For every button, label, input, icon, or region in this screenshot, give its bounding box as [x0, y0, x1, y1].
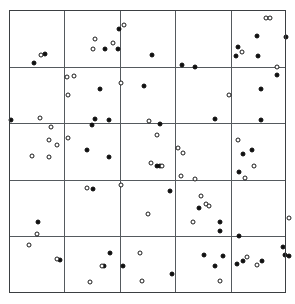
data-point-open [254, 262, 259, 267]
data-point-open [148, 160, 153, 165]
data-point-open [55, 142, 60, 147]
grid-line-vertical [231, 10, 232, 293]
data-point-open [155, 133, 160, 138]
data-point-open [252, 163, 257, 168]
data-point-filled [221, 253, 226, 258]
data-point-open [199, 194, 204, 199]
data-point-open [71, 74, 76, 79]
data-point-filled [234, 54, 239, 59]
grid-line-horizontal [9, 67, 286, 68]
data-point-open [30, 154, 35, 159]
data-point-open [139, 278, 144, 283]
data-point-open [193, 177, 198, 182]
data-point-open [180, 151, 185, 156]
data-point-open [54, 257, 59, 262]
data-point-filled [150, 53, 155, 58]
data-point-open [100, 263, 105, 268]
data-point-open [92, 37, 97, 42]
data-point-open [206, 203, 211, 208]
data-point-filled [236, 234, 241, 239]
data-point-open [122, 22, 127, 27]
data-point-filled [250, 148, 255, 153]
data-point-filled [213, 117, 218, 122]
data-point-open [236, 138, 241, 143]
grid-line-vertical [64, 10, 65, 293]
data-point-filled [193, 65, 198, 70]
data-point-filled [217, 229, 222, 234]
data-point-filled [142, 83, 147, 88]
data-point-open [84, 185, 89, 190]
data-point-filled [106, 154, 111, 159]
data-point-open [145, 211, 150, 216]
data-point-open [287, 215, 292, 220]
data-point-filled [235, 44, 240, 49]
data-point-filled [255, 34, 260, 39]
data-point-filled [240, 259, 245, 264]
grid-line-vertical [175, 10, 176, 293]
data-point-open [118, 183, 123, 188]
data-point-filled [97, 87, 102, 92]
data-point-open [38, 53, 43, 58]
data-point-filled [235, 261, 240, 266]
data-point-open [147, 118, 152, 123]
data-point-filled [179, 63, 184, 68]
data-point-filled [256, 53, 261, 58]
data-point-open [217, 279, 222, 284]
scatter-plot-figure [0, 0, 295, 304]
data-point-open [160, 163, 165, 168]
data-point-open [66, 93, 71, 98]
data-point-open [275, 64, 280, 69]
data-point-filled [259, 86, 264, 91]
data-point-open [240, 50, 245, 55]
data-point-filled [168, 189, 173, 194]
data-point-open [191, 219, 196, 224]
data-point-open [65, 135, 70, 140]
data-point-open [179, 174, 184, 179]
grid-line-vertical [120, 10, 121, 293]
data-point-filled [158, 122, 163, 127]
data-point-open [175, 145, 180, 150]
data-point-filled [284, 35, 289, 40]
data-point-filled [259, 258, 264, 263]
data-point-open [91, 47, 96, 52]
data-point-filled [259, 118, 264, 123]
data-point-open [64, 75, 69, 80]
data-point-open [118, 81, 123, 86]
data-point-filled [107, 251, 112, 256]
data-point-filled [169, 271, 174, 276]
data-point-filled [281, 244, 286, 249]
data-point-filled [89, 122, 94, 127]
data-point-filled [36, 219, 41, 224]
plot-area [9, 10, 286, 293]
data-point-filled [213, 264, 218, 269]
data-point-open [34, 232, 39, 237]
data-point-open [26, 243, 31, 248]
data-point-filled [84, 147, 89, 152]
data-point-filled [102, 47, 107, 52]
data-point-open [47, 154, 52, 159]
data-point-filled [91, 186, 96, 191]
data-point-open [38, 115, 43, 120]
data-point-filled [106, 118, 111, 123]
data-point-filled [120, 263, 125, 268]
data-point-filled [240, 151, 245, 156]
data-point-filled [117, 27, 122, 32]
data-point-filled [115, 47, 120, 52]
data-point-filled [286, 253, 291, 258]
data-point-open [268, 15, 273, 20]
data-point-filled [236, 170, 241, 175]
data-point-open [87, 280, 92, 285]
data-point-open [137, 251, 142, 256]
data-point-filled [217, 219, 222, 224]
data-point-filled [43, 52, 48, 57]
data-point-open [244, 254, 249, 259]
data-point-filled [202, 253, 207, 258]
data-point-open [110, 40, 115, 45]
data-point-open [48, 124, 53, 129]
data-point-filled [274, 72, 279, 77]
data-point-open [243, 176, 248, 181]
data-point-filled [32, 61, 37, 66]
data-point-filled [8, 118, 13, 123]
data-point-filled [197, 205, 202, 210]
data-point-open [46, 138, 51, 143]
